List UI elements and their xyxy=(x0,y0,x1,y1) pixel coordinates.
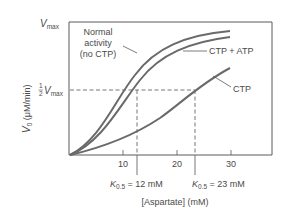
y-label-half-vmax: Vmax xyxy=(44,85,64,97)
label-normal-2: activity xyxy=(84,38,112,48)
x-tick-label-20: 20 xyxy=(172,159,182,169)
chart: Vmax 1 2 Vmax V0 (μM/min) Normal activit… xyxy=(0,0,288,220)
leader-normal xyxy=(123,46,137,53)
label-ctp-atp: CTP + ATP xyxy=(209,46,253,56)
half-num: 1 xyxy=(39,82,43,89)
k05-12-label: K0.5 = 12 mM xyxy=(110,179,163,190)
half-den: 2 xyxy=(39,90,43,97)
x-tick-label-30: 30 xyxy=(226,159,236,169)
y-label-vmax: Vmax xyxy=(40,18,60,30)
label-normal-1: Normal xyxy=(83,27,112,37)
leader-ctp xyxy=(213,76,231,87)
curve-ctp xyxy=(70,68,230,155)
label-ctp: CTP xyxy=(233,84,251,94)
y-axis-title: V0 (μM/min) xyxy=(21,85,33,133)
x-axis-title: [Aspartate] (mM) xyxy=(141,197,208,207)
label-normal-3: (no CTP) xyxy=(80,49,117,59)
k05-23-label: K0.5 = 23 mM xyxy=(192,179,245,190)
x-tick-label-10: 10 xyxy=(118,159,128,169)
